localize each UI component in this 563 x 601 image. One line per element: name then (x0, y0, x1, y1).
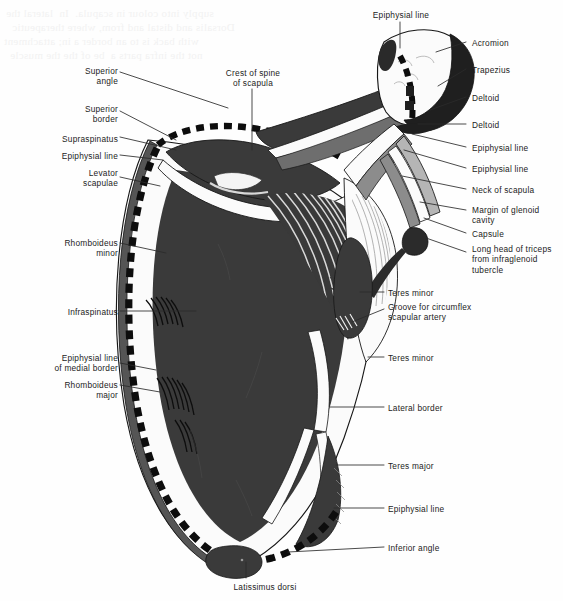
label-acromion: Acromion (472, 38, 562, 48)
label-infraspinatus: Infraspinatus (28, 307, 118, 317)
label-trapezius: Trapezius (472, 65, 562, 75)
label-capsule: Capsule (472, 229, 562, 239)
label-crest-of-spine: Crest of spine of scapula (198, 68, 308, 89)
label-superior-angle: Superior angle (45, 66, 118, 87)
label-epiphysial-line-top: Epiphysial line (346, 10, 456, 20)
label-epiphysial-line-lateral: Epiphysial line (388, 504, 508, 514)
label-lateral-border: Lateral border (388, 403, 508, 413)
label-superior-border: Superior border (45, 104, 118, 125)
latissimus-dorsi-oval (206, 546, 262, 579)
label-teres-minor-upper: Teres minor (388, 288, 508, 298)
label-teres-major: Teres major (388, 461, 508, 471)
label-teres-minor-lower: Teres minor (388, 353, 508, 363)
label-latissimus-dorsi: Latissimus dorsi (210, 582, 320, 592)
label-margin-of-glenoid: Margin of glenoid cavity (472, 205, 562, 226)
figure-page: supply into colour in scapula. In latera… (0, 0, 563, 601)
label-epiphysial-line-right-2: Epiphysial line (472, 164, 562, 174)
label-deltoid-upper: Deltoid (472, 93, 562, 103)
label-rhomboideus-major: Rhomboideus major (24, 380, 118, 401)
label-epiphysial-line-medial-upper: Epiphysial line (25, 151, 118, 161)
label-supraspinatus: Supraspinatus (25, 134, 118, 144)
label-epiphysial-line-medial-border: Epiphysial line of medial border (24, 353, 118, 374)
label-long-head-triceps: Long head of triceps from infraglenoid t… (472, 244, 562, 275)
label-inferior-angle: Inferior angle (388, 543, 508, 553)
label-neck-of-scapula: Neck of scapula (472, 185, 562, 195)
acromion-and-glenoid-head (377, 30, 474, 134)
label-rhomboideus-minor: Rhomboideus minor (24, 238, 118, 259)
label-groove-circumflex: Groove for circumflex scapular artery (388, 302, 548, 323)
label-levator-scapulae: Levator scapulae (45, 168, 118, 189)
label-deltoid-lower: Deltoid (472, 120, 562, 130)
label-epiphysial-line-right-1: Epiphysial line (472, 143, 562, 153)
